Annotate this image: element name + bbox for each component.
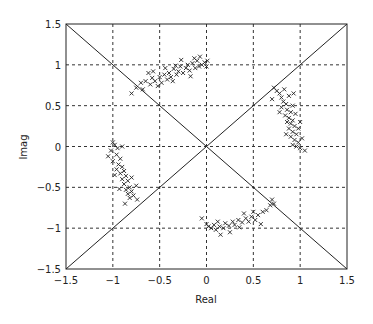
x-marker: [291, 143, 295, 147]
x-marker: [117, 187, 121, 191]
x-marker: [118, 171, 122, 175]
x-marker: [144, 79, 148, 83]
x-marker: [179, 58, 183, 62]
x-marker: [120, 177, 124, 181]
x-marker: [259, 222, 263, 226]
x-marker: [193, 66, 197, 70]
y-tick-label: 1: [55, 60, 61, 71]
y-ticks: 1.510.50−0.5−1−1.5: [37, 19, 61, 275]
x-marker: [181, 71, 185, 75]
x-marker: [261, 210, 265, 214]
x-marker: [148, 82, 152, 86]
x-marker: [278, 110, 282, 114]
cluster-bottom: [200, 198, 276, 237]
x-tick-label: −0.5: [148, 275, 172, 286]
x-tick-label: 1: [297, 275, 303, 286]
x-marker: [153, 79, 157, 83]
x-marker: [296, 140, 300, 144]
x-marker: [134, 86, 138, 90]
x-marker: [116, 162, 120, 166]
x-marker: [242, 211, 246, 215]
x-marker: [122, 169, 126, 173]
x-axis-label: Real: [195, 294, 217, 305]
x-marker: [279, 105, 283, 109]
x-marker: [169, 75, 173, 79]
x-marker: [279, 96, 283, 100]
x-marker: [198, 55, 202, 59]
x-marker: [115, 167, 119, 171]
x-marker: [293, 112, 297, 116]
x-marker: [160, 81, 164, 85]
x-marker: [240, 220, 244, 224]
x-marker: [287, 94, 291, 98]
x-marker: [264, 208, 268, 212]
x-marker: [285, 120, 289, 124]
x-marker: [284, 132, 288, 136]
x-marker: [126, 192, 130, 196]
x-marker: [151, 69, 155, 73]
x-marker: [223, 221, 227, 225]
y-tick-label: 1.5: [45, 19, 61, 30]
x-marker: [171, 79, 175, 83]
x-marker: [163, 66, 167, 70]
x-marker: [270, 198, 274, 202]
x-marker: [284, 102, 288, 106]
y-tick-label: −1.5: [37, 264, 61, 275]
x-tick-label: 1.5: [339, 275, 355, 286]
x-marker: [165, 78, 169, 82]
x-marker: [134, 184, 138, 188]
x-marker: [192, 56, 196, 60]
x-marker: [227, 224, 231, 228]
x-marker: [116, 146, 120, 150]
x-marker: [124, 174, 128, 178]
x-marker: [135, 198, 139, 202]
x-marker: [289, 110, 293, 114]
x-tick-label: 0: [203, 275, 209, 286]
x-marker: [303, 149, 307, 153]
x-marker: [167, 71, 171, 75]
x-marker: [212, 223, 216, 227]
x-marker: [268, 203, 272, 207]
x-marker: [216, 220, 220, 224]
x-marker: [293, 138, 297, 142]
x-marker: [256, 213, 260, 217]
x-marker: [292, 91, 296, 95]
x-marker: [218, 225, 222, 229]
x-marker: [237, 225, 241, 229]
y-tick-label: −0.5: [37, 182, 61, 193]
x-marker: [270, 97, 274, 101]
x-marker: [118, 157, 122, 161]
x-marker: [122, 182, 126, 186]
x-marker: [130, 91, 134, 95]
x-tick-label: −1: [105, 275, 120, 286]
x-marker: [139, 81, 143, 85]
x-marker: [247, 220, 251, 224]
x-ticks: −1.5−1−0.500.511.5: [54, 275, 355, 286]
y-axis-label: Imag: [18, 134, 29, 159]
scatter-chart: −1.5−1−0.500.511.5 1.510.50−0.5−1−1.5 Re…: [0, 0, 373, 324]
x-marker: [128, 196, 132, 200]
x-marker: [200, 216, 204, 220]
cluster-right: [270, 86, 307, 153]
x-marker: [188, 69, 192, 73]
x-marker: [236, 218, 240, 222]
x-marker: [219, 233, 223, 237]
x-tick-label: 0.5: [245, 275, 261, 286]
x-marker: [130, 176, 134, 180]
x-marker: [287, 116, 291, 120]
x-marker: [282, 87, 286, 91]
x-marker: [124, 188, 128, 192]
x-marker: [162, 73, 166, 77]
x-marker: [293, 124, 297, 128]
y-tick-label: 0: [55, 142, 61, 153]
x-marker: [120, 165, 124, 169]
x-marker: [126, 179, 130, 183]
x-marker: [291, 130, 295, 134]
x-marker: [278, 91, 282, 95]
x-marker: [283, 113, 287, 117]
x-marker: [285, 108, 289, 112]
x-marker: [289, 135, 293, 139]
y-tick-label: 0.5: [45, 101, 61, 112]
x-marker: [228, 230, 232, 234]
x-marker: [131, 194, 135, 198]
